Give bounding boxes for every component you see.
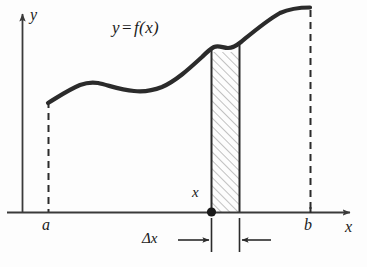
sample-point-dot bbox=[207, 207, 216, 216]
curve-equation-label: y=f(x) bbox=[112, 18, 159, 38]
equation-equals: = bbox=[120, 18, 134, 37]
lower-limit-label: a bbox=[42, 216, 50, 234]
equation-lhs: y bbox=[112, 18, 120, 37]
y-axis-label: y bbox=[30, 6, 37, 24]
equation-rhs: f(x) bbox=[134, 18, 159, 37]
upper-limit-label: b bbox=[304, 216, 312, 234]
strip-width-label: Δx bbox=[142, 230, 157, 247]
sample-point-label: x bbox=[192, 184, 199, 201]
x-axis-label: x bbox=[345, 218, 352, 236]
integral-strip-figure: y x a b x y=f(x) Δx bbox=[0, 0, 367, 267]
hatched-strip bbox=[211, 52, 240, 212]
function-curve bbox=[48, 8, 310, 104]
